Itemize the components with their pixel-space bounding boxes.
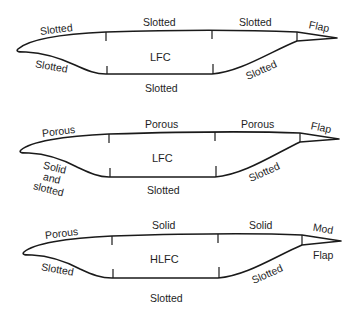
airfoil-2-outline (20, 132, 339, 177)
airfoil-2-lower-aft-label: Slotted (247, 159, 282, 183)
airfoil-3-mod-label: Mod (312, 221, 334, 236)
airfoil-2-lower-leading-label-3: slotted (32, 179, 65, 198)
airfoil-3-upper-mid-label: Solid (152, 219, 176, 231)
airfoil-2-upper-aft-label: Porous (241, 118, 274, 130)
airfoil-1-upper-aft-label: Slotted (239, 16, 272, 28)
airfoil-suction-diagram: Slotted Slotted Slotted Flap LFC Slotted… (0, 0, 359, 320)
airfoil-3-lower-aft-label: Slotted (250, 261, 285, 285)
airfoil-3-center-label: HLFC (150, 253, 179, 265)
airfoil-1-lfc: Slotted Slotted Slotted Flap LFC Slotted… (17, 16, 337, 94)
airfoil-3-flap-label: Flap (313, 249, 334, 261)
airfoil-2-flap-label: Flap (310, 119, 333, 135)
airfoil-3-lower-leading-label: Slotted (40, 260, 74, 278)
airfoil-3-hlfc: Porous Solid Solid Mod Flap HLFC Slotted… (23, 219, 341, 304)
airfoil-1-flap-label: Flap (308, 18, 331, 34)
airfoil-1-lower-mid-label: Slotted (145, 82, 178, 94)
airfoil-1-upper-mid-label: Slotted (143, 16, 176, 28)
airfoil-2-center-label: LFC (152, 152, 173, 164)
airfoil-1-lower-aft-label: Slotted (244, 57, 279, 81)
airfoil-2-lfc: Porous Porous Porous Flap LFC Solid and … (20, 118, 339, 199)
airfoil-2-upper-mid-label: Porous (145, 118, 178, 130)
airfoil-1-center-label: LFC (150, 51, 171, 63)
airfoil-3-lower-mid-label: Slotted (150, 292, 183, 304)
airfoil-2-lower-mid-label: Slotted (147, 184, 180, 196)
airfoil-3-upper-aft-label: Solid (249, 219, 273, 231)
